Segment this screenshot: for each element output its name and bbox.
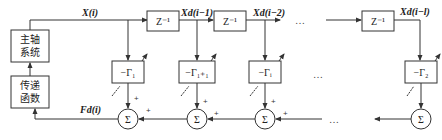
- gain-block-4: −Γ₂: [405, 61, 437, 83]
- gain1-adapt-arrow: [142, 54, 147, 61]
- delay-block-1: Z⁻¹: [147, 11, 179, 31]
- x-signal-line: [30, 20, 147, 30]
- plus-sign: +: [134, 94, 139, 103]
- gain4-adapt-dash: [407, 86, 414, 96]
- plus-sign: +: [283, 109, 288, 118]
- x-i-label: X(i): [81, 7, 98, 19]
- gain-4-label: −Γ₂: [414, 67, 429, 78]
- gain-block-2: −Γ₁₊₁: [179, 61, 215, 83]
- middle-ellipsis: …: [313, 69, 323, 80]
- gain3-adapt-arrow: [279, 54, 284, 61]
- gain-3-label: −Γᵢ: [258, 67, 271, 78]
- delay-block-3: Z⁻¹: [362, 11, 394, 31]
- delay-block-2: Z⁻¹: [214, 11, 246, 31]
- summer-2: Σ: [187, 109, 207, 129]
- plus-sign: +: [146, 106, 151, 115]
- gain2-adapt-arrow: [211, 54, 216, 61]
- transfer-function-block: 传递 函数: [11, 76, 49, 108]
- delay3-to-gain4-arrow: [394, 20, 420, 60]
- fd-feedback-line: [35, 109, 118, 119]
- summer-1-label: Σ: [125, 114, 131, 125]
- summer-1: Σ: [118, 109, 138, 129]
- delay-3-label: Z⁻¹: [371, 16, 385, 27]
- plus-sign: +: [214, 109, 219, 118]
- gain-2-label: −Γ₁₊₁: [185, 67, 208, 78]
- gain3-adapt-dash: [250, 86, 258, 96]
- summer-2-label: Σ: [194, 114, 200, 125]
- gain1-adapt-dash: [112, 86, 120, 96]
- xd-i-1-label: Xd(i−1): [180, 7, 213, 19]
- plus-sign: +: [271, 97, 276, 106]
- adaptive-filter-diagram: 主轴 系统 传递 函数 X(i) Z⁻¹ Xd(i−1) Z⁻¹ Xd(i−2)…: [0, 0, 442, 140]
- delay-2-label: Z⁻¹: [223, 16, 237, 27]
- spindle-system-label-2: 系统: [20, 46, 40, 58]
- bottom-ellipsis: …: [329, 114, 339, 125]
- summer-3: Σ: [255, 109, 275, 129]
- transfer-function-label-2: 函数: [20, 92, 40, 104]
- summer-4: Σ: [411, 109, 431, 129]
- xd-i-2-label: Xd(i−2): [252, 7, 285, 19]
- gain-block-1: −Γ₁: [112, 61, 144, 83]
- spindle-system-block: 主轴 系统: [11, 30, 49, 62]
- fd-i-label: Fd(i): [79, 104, 101, 116]
- plus-sign: +: [203, 97, 208, 106]
- summer-4-label: Σ: [418, 114, 424, 125]
- transfer-function-label-1: 传递: [20, 79, 40, 91]
- gain-block-3: −Γᵢ: [249, 61, 281, 83]
- top-ellipsis: …: [295, 15, 305, 26]
- summer-3-label: Σ: [262, 114, 268, 125]
- gain2-adapt-dash: [181, 86, 189, 96]
- gain4-adapt-arrow: [435, 54, 440, 61]
- delay-1-label: Z⁻¹: [156, 16, 170, 27]
- spindle-system-label-1: 主轴: [20, 33, 40, 45]
- gain-1-label: −Γ₁: [121, 67, 136, 78]
- xd-i-l-label: Xd(i−l): [399, 6, 430, 18]
